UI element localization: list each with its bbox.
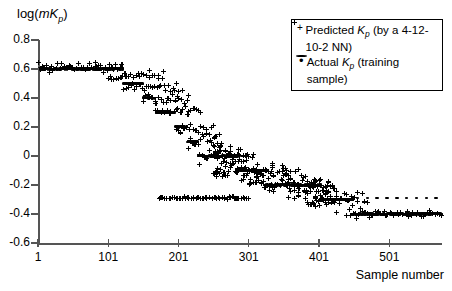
y-axis-title: log(mKp) <box>17 6 68 24</box>
predicted-data-point <box>158 195 163 200</box>
x-tick <box>318 239 319 247</box>
predicted-data-point <box>301 175 306 180</box>
predicted-data-point <box>213 195 218 200</box>
x-tick-label: 1 <box>18 250 58 264</box>
predicted-data-point <box>241 159 246 164</box>
predicted-data-point <box>355 199 360 204</box>
predicted-data-point <box>195 195 200 200</box>
predicted-data-point <box>218 143 223 148</box>
predicted-data-point <box>248 181 253 186</box>
predicted-data-point <box>260 173 265 178</box>
actual-data-point <box>386 197 389 200</box>
predicted-data-point <box>238 147 243 152</box>
x-tick-label: 301 <box>229 250 269 264</box>
predicted-data-point <box>178 130 183 135</box>
predicted-data-point <box>271 173 276 178</box>
predicted-data-point <box>354 216 359 221</box>
predicted-data-point <box>177 196 182 201</box>
actual-data-point <box>154 97 157 100</box>
predicted-data-point <box>277 169 282 174</box>
predicted-data-point <box>311 201 316 206</box>
y-tick <box>31 155 39 156</box>
legend-item-actual: • Actual Kp (training sample) <box>297 56 437 85</box>
predicted-data-point <box>313 194 318 199</box>
predicted-data-point <box>211 123 216 128</box>
x-tick-label: 401 <box>299 250 339 264</box>
predicted-data-point <box>223 173 228 178</box>
predicted-data-point <box>160 76 165 81</box>
actual-data-point <box>416 197 419 200</box>
y-tick-label: 0.2 <box>0 119 30 133</box>
y-tick <box>31 39 39 40</box>
y-tick-label: -0.2 <box>0 177 30 191</box>
predicted-data-point <box>197 162 202 167</box>
actual-data-point <box>435 197 438 200</box>
predicted-data-point <box>226 169 231 174</box>
predicted-data-point <box>119 62 124 67</box>
x-tick <box>248 239 249 247</box>
predicted-data-point <box>217 171 222 176</box>
predicted-data-point <box>239 178 244 183</box>
predicted-data-point <box>279 177 284 182</box>
predicted-data-point <box>222 195 227 200</box>
predicted-data-point <box>271 189 276 194</box>
y-tick-label: 0.8 <box>0 32 30 46</box>
predicted-data-point <box>326 179 331 184</box>
actual-data-point <box>196 140 199 143</box>
predicted-data-point <box>186 146 191 151</box>
chart-legend: + Predicted Kp (by a 4-12-10-2 NN) • Act… <box>291 19 443 91</box>
y-tick <box>31 126 39 127</box>
predicted-data-point <box>246 196 251 201</box>
x-axis-line <box>38 243 442 245</box>
dot-marker-icon: • <box>296 55 307 58</box>
predicted-data-point <box>228 144 233 149</box>
predicted-data-point <box>198 110 203 115</box>
predicted-data-point <box>334 189 339 194</box>
legend-label-actual: Actual Kp (training sample) <box>307 56 437 85</box>
predicted-data-point <box>317 203 322 208</box>
x-tick <box>108 239 109 247</box>
predicted-data-point <box>312 177 317 182</box>
y-tick <box>31 97 39 98</box>
y-tick <box>31 184 39 185</box>
chart-figure: log(mKp) Sample number + Predicted Kp (b… <box>0 0 452 291</box>
legend-item-predicted: + Predicted Kp (by a 4-12-10-2 NN) <box>297 24 437 53</box>
predicted-data-point <box>337 201 342 206</box>
predicted-data-point <box>174 81 179 86</box>
predicted-data-point <box>188 122 193 127</box>
predicted-data-point <box>215 166 220 171</box>
actual-data-point <box>122 67 125 70</box>
x-tick-label: 201 <box>159 250 199 264</box>
predicted-data-point <box>270 163 275 168</box>
predicted-data-point <box>326 189 331 194</box>
y-tick-label: 0.4 <box>0 90 30 104</box>
predicted-data-point <box>255 162 260 167</box>
predicted-data-point <box>292 196 297 201</box>
predicted-data-point <box>185 98 190 103</box>
actual-data-point <box>376 197 379 200</box>
predicted-data-point <box>365 200 370 205</box>
x-tick <box>389 239 390 247</box>
plus-marker-icon: + <box>295 22 306 27</box>
predicted-data-point <box>269 169 274 174</box>
predicted-data-point <box>224 160 229 165</box>
x-axis-title: Sample number <box>356 268 444 282</box>
predicted-data-point <box>217 132 222 137</box>
x-tick <box>178 239 179 247</box>
actual-data-point <box>426 197 429 200</box>
predicted-data-point <box>204 131 209 136</box>
predicted-data-point <box>360 191 365 196</box>
actual-data-point <box>141 83 144 86</box>
predicted-data-point <box>296 190 301 195</box>
predicted-data-point <box>186 196 191 201</box>
predicted-data-point <box>334 210 339 215</box>
x-tick <box>37 239 38 247</box>
predicted-data-point <box>141 99 146 104</box>
predicted-data-point <box>211 143 216 148</box>
predicted-data-point <box>180 88 185 93</box>
predicted-data-point <box>186 93 191 98</box>
predicted-data-point <box>232 196 237 201</box>
predicted-data-point <box>288 169 293 174</box>
x-tick-label: 101 <box>88 250 128 264</box>
predicted-data-point <box>168 196 173 201</box>
